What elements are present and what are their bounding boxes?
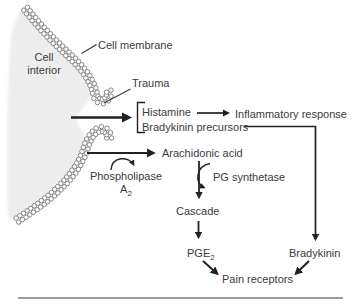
- bradykinin-label: Bradykinin: [289, 247, 340, 260]
- bradykinin-to-pain-receptors-arrow: [296, 261, 309, 274]
- pge2-to-pain-receptors-arrow: [203, 261, 217, 274]
- phospholipase-line2: A2: [88, 183, 164, 196]
- diagram-page: { "labels": { "cell_interior_line1": "Ce…: [0, 0, 353, 306]
- pain-receptors-label: Pain receptors: [222, 273, 293, 286]
- cell-interior-label: Cell interior: [14, 51, 74, 77]
- phospholipase-curved-arrow: [111, 159, 134, 170]
- pge2-label: PGE2: [187, 247, 215, 260]
- cell-interior-line2: interior: [14, 64, 74, 77]
- cell-interior-line1: Cell: [14, 51, 74, 64]
- cell-membrane-label: Cell membrane: [98, 39, 173, 52]
- pg-synthetase-label: PG synthetase: [213, 171, 285, 184]
- inflammatory-response-label: Inflammatory response: [235, 108, 347, 121]
- cell-membrane-pointer-line: [82, 45, 97, 54]
- arachidonic-acid-label: Arachidonic acid: [162, 147, 243, 160]
- bradykinin-precursors-label: Bradykinin precursors: [142, 121, 248, 134]
- phospholipase-a2-label: Phospholipase A2: [88, 170, 164, 196]
- histamine-label: Histamine: [142, 106, 191, 119]
- cascade-label: Cascade: [176, 205, 219, 218]
- pge2-subscript: 2: [210, 253, 214, 262]
- trauma-label: Trauma: [132, 77, 170, 90]
- phospholipase-subscript: 2: [127, 189, 131, 198]
- phospholipase-line1: Phospholipase: [88, 170, 164, 183]
